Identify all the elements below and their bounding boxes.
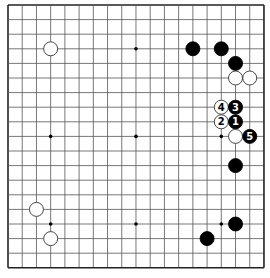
white-stone bbox=[44, 42, 58, 56]
go-board-canvas[interactable]: 43215 bbox=[0, 0, 270, 278]
black-stone-icon bbox=[229, 217, 243, 231]
black-stone bbox=[186, 42, 200, 56]
black-stone-icon bbox=[229, 159, 243, 173]
white-stone-move-4: 4 bbox=[214, 100, 228, 114]
move-number-label: 4 bbox=[218, 102, 225, 113]
move-number-label: 3 bbox=[232, 102, 239, 113]
white-stone-icon bbox=[44, 232, 58, 246]
star-point bbox=[49, 135, 53, 139]
move-number-label: 1 bbox=[232, 116, 239, 127]
white-stone-icon bbox=[243, 71, 257, 85]
black-stone-icon bbox=[200, 232, 214, 246]
white-stone bbox=[29, 202, 43, 216]
white-stone-move-2: 2 bbox=[214, 115, 228, 129]
move-number-label: 2 bbox=[218, 116, 225, 127]
black-stone bbox=[229, 159, 243, 173]
star-point bbox=[49, 222, 53, 226]
star-point bbox=[220, 222, 224, 226]
white-stone-icon bbox=[229, 129, 243, 143]
white-stone bbox=[229, 129, 243, 143]
white-stone-icon bbox=[44, 42, 58, 56]
black-stone-move-1: 1 bbox=[229, 115, 243, 129]
white-stone-icon bbox=[29, 202, 43, 216]
black-stone bbox=[214, 42, 228, 56]
move-number-label: 5 bbox=[246, 131, 253, 142]
white-stone bbox=[44, 232, 58, 246]
black-stone-icon bbox=[229, 56, 243, 70]
black-stone bbox=[200, 232, 214, 246]
black-stone-move-5: 5 bbox=[243, 129, 257, 143]
black-stone-icon bbox=[214, 42, 228, 56]
white-stone bbox=[229, 71, 243, 85]
black-stone bbox=[229, 217, 243, 231]
black-stone bbox=[229, 56, 243, 70]
star-point bbox=[134, 47, 138, 51]
star-point bbox=[220, 135, 224, 139]
black-stone-move-3: 3 bbox=[229, 100, 243, 114]
black-stone-icon bbox=[186, 42, 200, 56]
go-board[interactable]: 43215 bbox=[0, 0, 270, 278]
star-point bbox=[134, 222, 138, 226]
stones-layer: 43215 bbox=[29, 42, 256, 246]
star-point bbox=[134, 135, 138, 139]
white-stone bbox=[243, 71, 257, 85]
white-stone-icon bbox=[229, 71, 243, 85]
